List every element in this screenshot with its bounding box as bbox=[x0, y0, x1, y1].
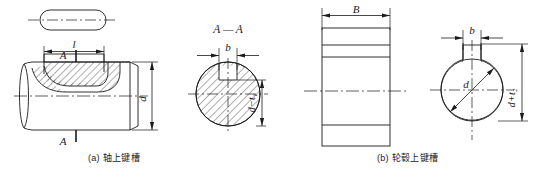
label-hub-width-B: B bbox=[353, 3, 360, 15]
label-length-l: l bbox=[72, 38, 75, 50]
caption-a: (a) 轴上键槽 bbox=[88, 151, 140, 164]
view-b-hub-section bbox=[430, 30, 528, 140]
hub-outline bbox=[322, 28, 390, 146]
label-hub-diameter-d: d bbox=[463, 78, 469, 90]
label-shaft-diameter-d: d bbox=[136, 96, 148, 102]
section-label-a-bottom: A bbox=[59, 135, 67, 147]
section-label-a-top: A bbox=[59, 49, 67, 61]
view-b-hub-elevation bbox=[304, 8, 408, 146]
section-title-a-a: A — A bbox=[212, 23, 244, 35]
drawing-canvas: l A A d A — A b d−t₁ B b d d+t₂ bbox=[0, 0, 541, 173]
keyway-engineering-drawing: l A A d A — A b d−t₁ B b d d+t₂ (a) 轴上键槽… bbox=[0, 0, 541, 173]
label-shaft-keyway-width-b: b bbox=[225, 41, 231, 53]
view-a-shaft-keyway bbox=[14, 10, 158, 142]
label-hub-keyway-width-b: b bbox=[469, 24, 475, 36]
caption-b: (b) 轮毂上键槽 bbox=[377, 151, 438, 164]
view-a-section-aa bbox=[188, 48, 268, 134]
label-hub-keyway-depth: d+t₂ bbox=[506, 88, 517, 107]
label-shaft-keyway-depth: d−t₁ bbox=[246, 94, 257, 113]
